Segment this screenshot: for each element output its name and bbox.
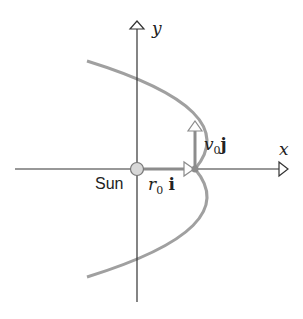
orbit-diagram: y x Sun r0 i v0j [0,0,303,319]
y-axis-arrow-icon [130,21,144,29]
position-vector-label: r0 i [148,176,175,196]
velocity-vector-label: v0j [204,136,227,156]
sun-icon [131,163,144,176]
position-unit: i [169,174,175,194]
velocity-unit: j [221,134,227,154]
position-subscript: 0 [156,184,163,197]
velocity-subscript: 0 [214,144,221,157]
x-axis-arrow-icon [279,162,288,176]
x-axis-label: x [279,141,289,158]
sun-label: Sun [95,176,123,192]
position-symbol: r [148,174,156,194]
planet-dot-icon [192,166,199,173]
diagram-canvas [0,0,303,319]
velocity-symbol: v [204,134,214,154]
y-axis-label: y [152,20,162,37]
